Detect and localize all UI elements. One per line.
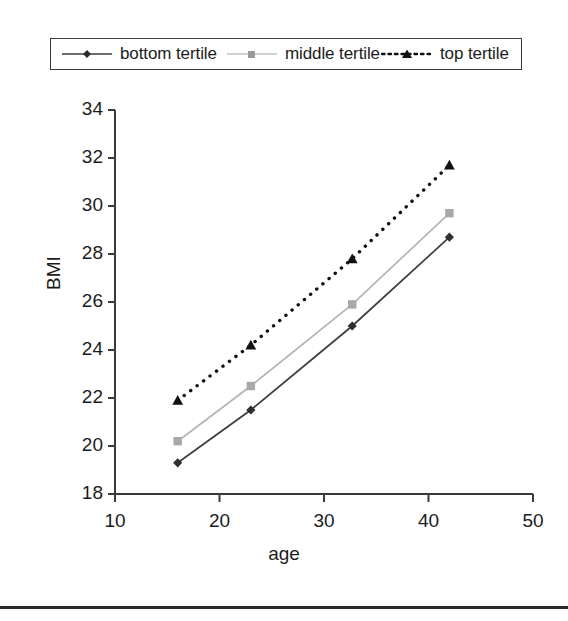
- y-axis-title: BMI: [43, 213, 65, 333]
- footer-divider: [0, 606, 568, 609]
- data-point-marker[interactable]: [172, 395, 183, 405]
- data-point-marker[interactable]: [445, 209, 453, 217]
- data-point-marker[interactable]: [247, 382, 255, 390]
- x-tick-label: 50: [503, 510, 563, 532]
- y-tick-label: 34: [57, 98, 103, 120]
- x-tick-label: 10: [85, 510, 145, 532]
- series-line-0: [178, 237, 450, 463]
- y-tick-label: 24: [57, 338, 103, 360]
- data-point-marker[interactable]: [347, 253, 358, 263]
- series-line-2: [178, 165, 450, 400]
- y-tick-label: 22: [57, 386, 103, 408]
- x-tick-label: 40: [399, 510, 459, 532]
- data-point-marker[interactable]: [174, 437, 182, 445]
- y-tick-label: 32: [57, 146, 103, 168]
- x-tick-label: 20: [190, 510, 250, 532]
- data-point-marker[interactable]: [444, 160, 455, 170]
- chart-figure: bottom tertile middle tertile: [0, 0, 568, 621]
- y-tick-label: 18: [57, 482, 103, 504]
- series-line-1: [178, 213, 450, 441]
- series-group: [172, 160, 455, 468]
- axes-group: [108, 110, 533, 502]
- x-axis-title: age: [0, 543, 568, 565]
- y-tick-label: 20: [57, 434, 103, 456]
- data-point-marker[interactable]: [348, 300, 356, 308]
- x-tick-label: 30: [294, 510, 354, 532]
